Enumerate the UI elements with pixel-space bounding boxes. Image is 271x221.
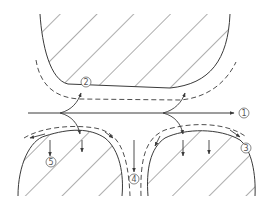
upper-body	[30, 10, 240, 95]
svg-text:5: 5	[48, 158, 53, 167]
label-2: 2	[81, 77, 91, 87]
svg-text:2: 2	[83, 78, 88, 87]
branch-down-right	[163, 113, 183, 134]
flow-diagram: 1 2 3 4 5	[0, 0, 271, 221]
svg-text:1: 1	[241, 109, 246, 118]
branch-up-right	[163, 93, 185, 113]
label-1: 1	[239, 108, 249, 118]
svg-text:3: 3	[243, 144, 248, 153]
label-5: 5	[46, 157, 56, 167]
branch-up-left	[60, 93, 81, 113]
svg-text:4: 4	[131, 175, 136, 184]
lower-right-body	[140, 125, 260, 200]
label-4: 4	[129, 174, 139, 184]
label-3: 3	[241, 143, 251, 153]
